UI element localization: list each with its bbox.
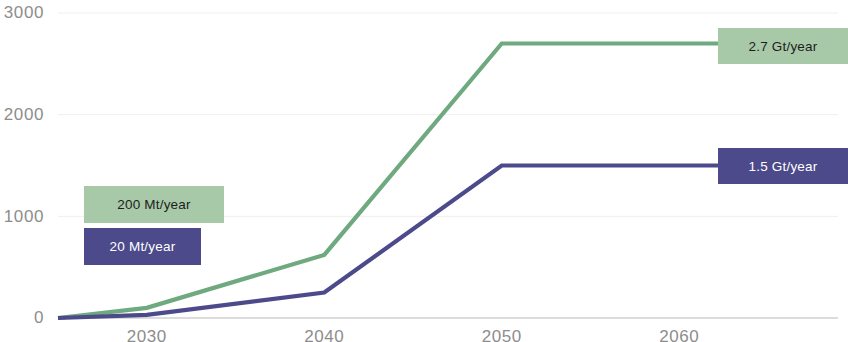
x-tick-label: 2050 (482, 327, 522, 342)
x-tick-label: 2060 (659, 327, 699, 342)
series-green-series (58, 44, 768, 319)
callout-label: 2.7 Gt/year (749, 39, 818, 54)
data-series (58, 44, 768, 319)
y-tick-label: 2000 (4, 105, 44, 124)
callout-purple-end-rate: 1.5 Gt/year (718, 148, 848, 184)
x-tick-label: 2030 (127, 327, 167, 342)
y-tick-label: 0 (34, 308, 44, 327)
callout-label: 1.5 Gt/year (749, 159, 818, 174)
callout-green-start-rate: 200 Mt/year (84, 186, 224, 223)
y-tick-label: 1000 (4, 207, 44, 226)
callout-label: 20 Mt/year (110, 239, 176, 254)
x-tick-label: 2040 (304, 327, 344, 342)
x-tick-labels: 2030204020502060 (127, 327, 700, 342)
callout-label: 200 Mt/year (117, 197, 190, 212)
y-tick-labels: 0100020003000 (4, 3, 44, 327)
y-tick-label: 3000 (4, 3, 44, 22)
callout-purple-start-rate: 20 Mt/year (84, 228, 201, 265)
callout-green-end-rate: 2.7 Gt/year (718, 28, 848, 64)
